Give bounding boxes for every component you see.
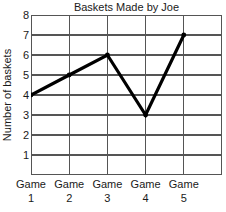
y-axis-tick-label: 6: [15, 48, 29, 62]
data-point-marker: [67, 73, 72, 78]
y-axis-tick-label: 7: [15, 28, 29, 42]
x-axis-tick-label-line2: 5: [162, 191, 206, 205]
plot-svg: [31, 15, 222, 175]
y-axis-tick-label: 2: [15, 128, 29, 142]
y-axis-title: Number of baskets: [0, 15, 14, 175]
y-axis-tick-label: 4: [15, 88, 29, 102]
gridlines: [31, 15, 222, 175]
y-axis-tick-label: 1: [15, 148, 29, 162]
data-point-marker: [105, 53, 110, 58]
y-axis-tick-label: 5: [15, 68, 29, 82]
plot-area: [31, 15, 222, 175]
x-axis-tick-label-line1: Game: [162, 177, 206, 191]
chart-container: Baskets Made by Joe Number of baskets 12…: [0, 0, 226, 212]
y-axis-tick-labels: 12345678: [14, 15, 29, 175]
y-axis-tick-label: 3: [15, 108, 29, 122]
chart-title: Baskets Made by Joe: [31, 0, 222, 15]
x-axis-tick-label: Game5: [162, 177, 206, 205]
y-axis-tick-label: 8: [15, 8, 29, 22]
data-point-marker: [181, 33, 186, 38]
y-axis-title-text: Number of baskets: [1, 49, 13, 141]
data-point-marker: [143, 113, 148, 118]
x-axis-tick-labels: Game1Game2Game3Game4Game5: [24, 177, 226, 212]
